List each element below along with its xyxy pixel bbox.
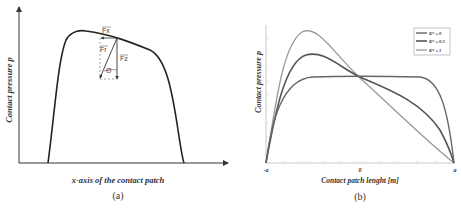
fz-label: Fz — [120, 55, 128, 62]
panel-a: Fx Fr Fz Θ Contact pressure p x-axis of … — [4, 7, 228, 202]
y-axis-label-b: Contact pressure p — [254, 51, 263, 113]
legend: K* = 0 K* = 0.5 K* = 1 — [414, 28, 450, 55]
caption-a: (a) — [112, 190, 123, 202]
fx-label: Fx — [102, 27, 110, 34]
curve-k0 — [266, 76, 454, 163]
theta-label: Θ — [106, 67, 112, 74]
xtick-neg-a: -a — [264, 167, 269, 173]
pressure-curve-a — [48, 31, 184, 163]
curve-k05 — [266, 54, 454, 163]
x-axis-label-a: x-axis of the contact patch — [71, 175, 165, 185]
fr-label: Fr — [100, 46, 107, 53]
caption-b: (b) — [354, 191, 366, 203]
figure: Fx Fr Fz Θ Contact pressure p x-axis of … — [0, 0, 461, 210]
legend-k1: K* = 1 — [428, 48, 441, 53]
y-axis-label-a: Contact pressure p — [4, 57, 14, 123]
legend-k05: K* = 0.5 — [428, 39, 445, 44]
x-axis-label-b: Contact patch lenght [m] — [321, 176, 399, 185]
legend-k0: K* = 0 — [428, 31, 442, 36]
xtick-a: a — [454, 167, 457, 173]
xtick-zero: 0 — [359, 167, 362, 173]
panel-b: K* = 0 K* = 0.5 K* = 1 -a 0 a Contact pr… — [254, 25, 457, 203]
